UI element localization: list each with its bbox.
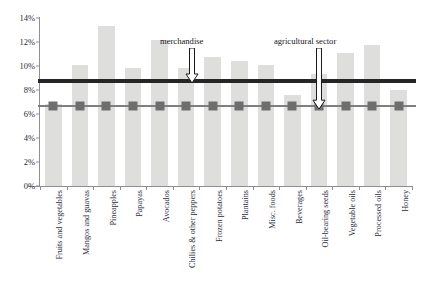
bar (204, 57, 221, 186)
y-axis-tick-mark (36, 66, 41, 67)
plot-area: 0%2%4%6%8%10%12%14%merchandiseagricultur… (40, 18, 412, 186)
y-axis-tick-mark (36, 162, 41, 163)
agricultural-sector-marker (208, 102, 217, 111)
x-axis-category-label: Oil-bearing seeds (322, 190, 330, 248)
agricultural-sector-marker (129, 102, 138, 111)
x-axis-category-label: Chilies & other peppers (189, 190, 197, 268)
x-axis-category-label: Vegetable oils (349, 190, 357, 236)
x-axis-category-label: Frozen potatoes (216, 190, 224, 242)
chart-figure: 0%2%4%6%8%10%12%14%merchandiseagricultur… (0, 0, 422, 294)
x-axis-category-label: Mangos and guavas (83, 190, 91, 255)
x-axis-category-label: Avocados (163, 190, 171, 222)
x-axis-category-label: Misc. foods (269, 190, 277, 229)
x-axis-category-label: Beverages (296, 190, 304, 224)
x-axis-category-label: Pineapples (110, 190, 118, 225)
bar (125, 68, 142, 186)
agricultural-sector-marker (261, 102, 270, 111)
y-axis-tick-mark (36, 18, 41, 19)
y-axis-tick-mark (36, 42, 41, 43)
agricultural-sector-marker (341, 102, 350, 111)
agricultural-sector-marker (394, 102, 403, 111)
x-axis-category-label: Fruits and vegetables (56, 190, 64, 260)
x-axis-line (28, 186, 412, 187)
x-axis-tick-mark (412, 186, 413, 190)
y-axis-tick-mark (36, 90, 41, 91)
x-axis-category-labels: Fruits and vegetablesMangos and guavasPi… (40, 190, 412, 294)
y-axis-tick-mark (36, 138, 41, 139)
annotation-merchandise-label: merchandise (160, 37, 203, 46)
agricultural-sector-marker (75, 102, 84, 111)
x-axis-category-label: Plantains (242, 190, 250, 220)
chart-title (0, 0, 422, 2)
annotation-agricultural-sector-arrow-icon (312, 48, 326, 113)
x-axis-category-label: Processed oils (375, 190, 383, 237)
x-axis-category-label: Honey (402, 190, 410, 212)
agricultural-sector-marker (49, 102, 58, 111)
bar (72, 65, 89, 186)
y-axis-tick-mark (36, 114, 41, 115)
bar (151, 40, 168, 186)
bar (337, 53, 354, 186)
agricultural-sector-marker (235, 102, 244, 111)
agricultural-sector-marker (182, 102, 191, 111)
reference-line-agricultural-sector (38, 105, 416, 107)
agricultural-sector-marker (368, 102, 377, 111)
bar (45, 104, 62, 186)
annotation-agricultural-sector-label: agricultural sector (274, 37, 336, 46)
bar (364, 45, 381, 186)
bar (258, 65, 275, 186)
agricultural-sector-marker (155, 102, 164, 111)
agricultural-sector-marker (288, 102, 297, 111)
reference-line-merchandise (38, 79, 416, 82)
annotation-merchandise-arrow-icon (185, 48, 199, 88)
agricultural-sector-marker (102, 102, 111, 111)
x-axis-category-label: Papayas (136, 190, 144, 217)
